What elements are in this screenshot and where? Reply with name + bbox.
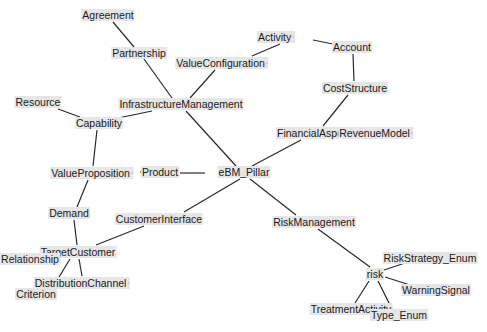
edge-coststructure-financialaspe <box>323 95 348 126</box>
edge-ebm_pillar-customerinterface <box>184 179 240 212</box>
edge-financialaspe-ebm_pillar <box>252 140 301 166</box>
edge-infrastructuremanagement-ebm_pillar <box>186 111 236 166</box>
edge-ebm_pillar-riskmanagement <box>250 179 296 215</box>
node-label: InfrastructureManagement <box>119 98 242 110</box>
node-marker-icon: ▫ <box>266 60 268 66</box>
node-label: ValueConfiguration <box>176 57 265 69</box>
edge-capability-infrastructuremanagement <box>118 111 152 118</box>
edge-account-coststructure <box>353 54 354 81</box>
node-label: risk <box>367 268 383 280</box>
node-resource[interactable]: Resource <box>15 96 62 108</box>
edge-capability-valueproposition <box>93 130 97 166</box>
node-marker-icon: ▫ <box>292 34 294 40</box>
node-label: Demand <box>49 207 89 219</box>
node-revenuemodel[interactable]: RevenueModel▫ <box>338 127 413 139</box>
node-relationship[interactable]: Relationship <box>0 253 60 265</box>
node-financialaspe[interactable]: FinancialAspe <box>276 127 344 139</box>
node-label: Relationship <box>1 253 59 265</box>
edge-demand-targetcustomer <box>74 220 77 245</box>
node-label: Capability <box>76 117 122 129</box>
node-label: RiskManagement <box>273 216 355 228</box>
node-valueproposition[interactable]: ValueProposition▫ <box>50 167 133 179</box>
node-agreement[interactable]: Agreement <box>81 9 134 21</box>
node-criterion[interactable]: Criterion <box>15 288 57 300</box>
node-type_enum[interactable]: Type_Enum <box>370 309 428 321</box>
node-label: RiskStrategy_Enum <box>384 252 477 264</box>
edge-partnership-infrastructuremanagement <box>144 59 172 98</box>
node-label: Account <box>333 41 371 53</box>
node-label: Partnership <box>112 47 166 59</box>
edge-targetcustomer-distributionchannel <box>79 259 82 276</box>
node-label: Type_Enum <box>371 309 427 321</box>
node-marker-icon: ▫ <box>411 130 413 136</box>
node-label: WarningSignal <box>402 284 470 296</box>
node-product[interactable]: Product <box>141 166 179 178</box>
edge-valueconfiguration-activity <box>252 44 280 56</box>
node-label: RevenueModel <box>339 127 410 139</box>
edge-valueproposition-demand <box>77 180 88 207</box>
node-riskmanagement[interactable]: RiskManagement <box>272 216 356 228</box>
node-label: ValueProposition <box>51 167 130 179</box>
node-customerinterface[interactable]: CustomerInterface <box>115 213 203 225</box>
node-marker-icon: ▫ <box>127 280 129 286</box>
node-warningsignal[interactable]: WarningSignal <box>401 284 471 296</box>
node-ebm_pillar[interactable]: eBM_Pillar <box>218 166 271 178</box>
node-label: Agreement <box>82 9 133 21</box>
node-capability[interactable]: Capability <box>75 117 123 129</box>
edge-activity-account <box>313 40 333 44</box>
node-label: CustomerInterface <box>116 213 202 225</box>
node-label: Activity <box>258 31 291 43</box>
node-label: eBM_Pillar <box>219 166 270 178</box>
edge-customerinterface-targetcustomer <box>96 226 144 245</box>
node-riskstrategy_enum[interactable]: RiskStrategy_Enum <box>383 252 478 264</box>
edge-risk-treatmentactivity <box>355 281 369 303</box>
node-label: Resource <box>16 96 61 108</box>
edge-agreement-partnership <box>113 22 134 47</box>
node-activity[interactable]: Activity▫ <box>257 31 295 43</box>
node-infrastructuremanagement[interactable]: InfrastructureManagement <box>118 98 243 110</box>
edge-resource-capability <box>58 109 80 117</box>
edge-riskmanagement-risk <box>318 229 370 267</box>
node-valueconfiguration[interactable]: ValueConfiguration▫ <box>175 57 268 69</box>
concept-graph-canvas: AgreementPartnershipValueConfiguration▫A… <box>0 0 487 332</box>
node-account[interactable]: Account <box>332 41 372 53</box>
edge-valueconfiguration-infrastructuremanagement <box>190 70 215 98</box>
node-demand[interactable]: Demand <box>48 207 90 219</box>
edge-risk-riskstrategy_enum <box>384 263 405 270</box>
node-partnership[interactable]: Partnership <box>111 47 167 59</box>
node-label: FinancialAspe <box>277 127 343 139</box>
node-label: CostStructure <box>323 82 387 94</box>
node-risk[interactable]: risk <box>366 268 384 280</box>
node-coststructure[interactable]: CostStructure <box>322 82 388 94</box>
node-label: Product <box>142 166 178 178</box>
node-label: Criterion <box>16 288 56 300</box>
node-marker-icon: ▫ <box>131 170 133 176</box>
